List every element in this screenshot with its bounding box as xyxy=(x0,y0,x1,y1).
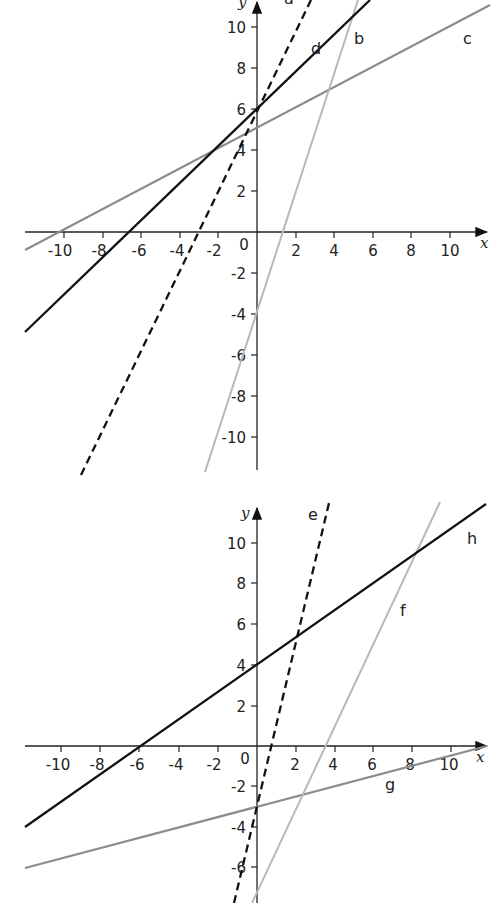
svg-text:2: 2 xyxy=(236,183,246,201)
svg-text:-4: -4 xyxy=(169,756,184,774)
svg-text:6: 6 xyxy=(367,756,377,774)
svg-text:8: 8 xyxy=(406,242,416,260)
svg-text:-8: -8 xyxy=(231,388,246,406)
svg-text:-10: -10 xyxy=(222,429,247,447)
line-h xyxy=(25,504,486,827)
label-g: g xyxy=(385,775,395,794)
svg-text:10: 10 xyxy=(440,242,459,260)
svg-text:-2: -2 xyxy=(207,242,222,260)
svg-text:2: 2 xyxy=(291,242,301,260)
svg-text:10: 10 xyxy=(227,19,246,37)
line-a xyxy=(81,0,311,475)
svg-text:-4: -4 xyxy=(231,819,246,837)
svg-text:-8: -8 xyxy=(90,756,105,774)
svg-text:6: 6 xyxy=(368,242,378,260)
line-b xyxy=(205,0,358,472)
bottom-y-tick-labels: 10 8 6 4 2 -2 -4 -6 xyxy=(227,535,246,877)
svg-text:-6: -6 xyxy=(130,756,145,774)
bottom-x-tick-labels: -10 -8 -6 -4 -2 2 4 6 8 10 xyxy=(46,756,459,774)
svg-text:10: 10 xyxy=(227,535,246,553)
svg-text:-4: -4 xyxy=(170,242,185,260)
top-origin-label: 0 xyxy=(239,236,249,254)
top-graph: -10 -8 -6 -4 -2 2 4 6 8 10 0 x y 10 8 6 … xyxy=(0,0,495,480)
svg-text:2: 2 xyxy=(236,698,246,716)
svg-text:6: 6 xyxy=(236,101,246,119)
svg-text:-10: -10 xyxy=(46,756,71,774)
svg-text:-6: -6 xyxy=(132,242,147,260)
label-e: e xyxy=(308,505,318,524)
svg-text:-4: -4 xyxy=(231,306,246,324)
bottom-x-ticks xyxy=(61,746,451,752)
line-e xyxy=(234,503,329,903)
label-a: a xyxy=(284,0,294,8)
bottom-graph: -10 -8 -6 -4 -2 2 4 6 8 10 0 x y 10 8 6 … xyxy=(0,480,495,903)
svg-text:-10: -10 xyxy=(48,242,73,260)
label-h: h xyxy=(467,529,477,548)
bottom-y-ticks xyxy=(251,543,257,867)
svg-text:6: 6 xyxy=(236,616,246,634)
line-f xyxy=(252,502,440,903)
svg-text:4: 4 xyxy=(328,756,338,774)
bottom-y-axis-label: y xyxy=(240,504,250,522)
bottom-x-axis-label: x xyxy=(476,748,485,766)
svg-text:8: 8 xyxy=(236,575,246,593)
label-d: d xyxy=(311,39,321,58)
bottom-origin-label: 0 xyxy=(240,750,250,768)
svg-text:2: 2 xyxy=(290,756,300,774)
svg-text:4: 4 xyxy=(329,242,339,260)
svg-text:8: 8 xyxy=(236,60,246,78)
label-c: c xyxy=(463,29,472,48)
svg-text:-2: -2 xyxy=(231,778,246,796)
svg-text:-2: -2 xyxy=(231,265,246,283)
top-y-axis-label: y xyxy=(237,0,247,11)
top-x-axis-label: x xyxy=(480,234,489,252)
label-b: b xyxy=(354,29,364,48)
label-f: f xyxy=(400,601,406,620)
svg-text:-2: -2 xyxy=(207,756,222,774)
